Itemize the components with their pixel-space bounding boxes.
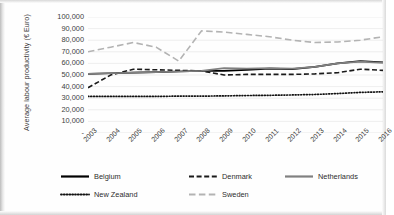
gridlines — [88, 17, 383, 133]
y-axis-title: Average labour productivity (€ Euro) — [22, 0, 31, 148]
legend-item-netherlands[interactable]: Netherlands — [284, 172, 358, 181]
legend-label: Denmark — [222, 172, 252, 181]
y-tick-label: 80,000 — [40, 36, 84, 44]
series-line-sweden — [88, 31, 383, 61]
legend-swatch-icon — [60, 190, 90, 199]
legend-item-denmark[interactable]: Denmark — [188, 172, 252, 181]
y-tick-label: - — [40, 129, 84, 137]
legend-swatch-icon — [188, 172, 218, 181]
legend-label: Sweden — [222, 190, 249, 199]
legend-label: Netherlands — [318, 172, 358, 181]
y-tick-label: 20,000 — [40, 106, 84, 114]
chart-legend: BelgiumDenmarkNetherlandsNew ZealandSwed… — [60, 172, 380, 208]
y-tick-label: 40,000 — [40, 83, 84, 91]
y-tick-label: 50,000 — [40, 71, 84, 79]
x-axis-tick-labels: 2003200420052006200720082009201020112012… — [88, 133, 386, 171]
y-tick-label: 100,000 — [40, 13, 84, 21]
legend-swatch-icon — [284, 172, 314, 181]
y-tick-label: 70,000 — [40, 48, 84, 56]
legend-item-belgium[interactable]: Belgium — [60, 172, 121, 181]
legend-swatch-icon — [188, 190, 218, 199]
y-tick-label: 60,000 — [40, 59, 84, 67]
legend-swatch-icon — [60, 172, 90, 181]
legend-label: Belgium — [94, 172, 121, 181]
legend-item-sweden[interactable]: Sweden — [188, 190, 249, 199]
plot-area — [88, 17, 383, 133]
series-line-new-zealand — [88, 92, 383, 97]
y-tick-label: 10,000 — [40, 117, 84, 125]
plot-svg — [88, 17, 383, 133]
y-tick-label: 90,000 — [40, 25, 84, 33]
y-tick-label: 30,000 — [40, 94, 84, 102]
legend-label: New Zealand — [94, 190, 138, 199]
legend-item-new-zealand[interactable]: New Zealand — [60, 190, 138, 199]
scan-edge-left — [0, 0, 5, 215]
x-tick-label: 2003 — [82, 127, 99, 144]
